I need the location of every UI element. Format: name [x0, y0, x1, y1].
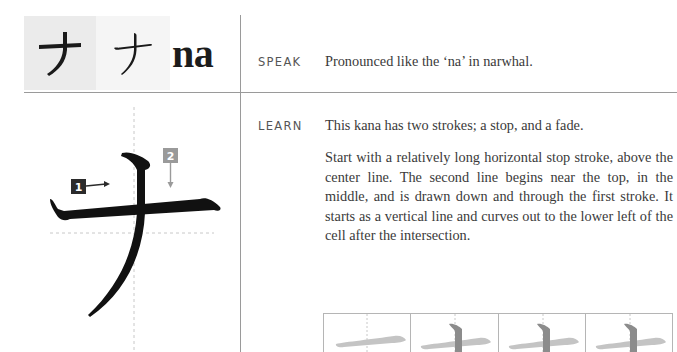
stroke-1-guide: [336, 336, 406, 348]
stroke-order-diagram: 1 2: [0, 95, 240, 352]
kana-print-tile: [24, 16, 96, 90]
arrow-right-icon: [86, 184, 106, 186]
practice-cell-4: [586, 314, 672, 352]
stroke-2: [88, 152, 150, 317]
practice-cell-3: [499, 314, 586, 352]
marker-1-number: 1: [75, 181, 83, 194]
column-divider: [240, 15, 241, 352]
learn-description: Start with a relatively long horizontal …: [325, 148, 673, 246]
stroke-2-guide: [449, 324, 462, 352]
stroke-2-marker: 2: [163, 148, 178, 188]
practice-cell-2: [411, 314, 498, 352]
speak-text: Pronounced like the ‘na’ in narwhal.: [325, 52, 533, 72]
kana-handwritten-tile: [96, 16, 170, 90]
romaji-label: na: [172, 30, 213, 77]
marker-2-number: 2: [167, 150, 175, 163]
stroke-2-guide: [624, 324, 637, 352]
stroke-1: [50, 198, 221, 220]
stroke-practice-grid: [323, 313, 673, 352]
learn-summary: This kana has two strokes; a stop, and a…: [325, 116, 583, 136]
stroke-2-guide: [537, 324, 550, 352]
kana-na-print-glyph: [37, 28, 83, 78]
header-divider: [24, 92, 677, 93]
practice-cell-1: [324, 314, 411, 352]
learn-label: LEARN: [258, 119, 303, 133]
kana-na-handwritten-glyph: [110, 28, 156, 78]
stroke-1-marker: 1: [71, 179, 110, 194]
speak-label: SPEAK: [258, 55, 301, 69]
